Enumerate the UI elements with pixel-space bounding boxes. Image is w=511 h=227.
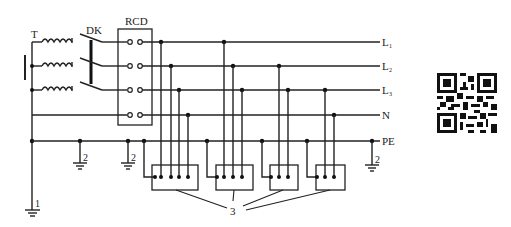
label-PE: PE: [382, 135, 395, 147]
load-3: [260, 64, 298, 190]
label-L2: L: [382, 60, 389, 72]
ground-2c-label: 2: [375, 154, 380, 165]
transformer: T: [25, 28, 72, 210]
label-L3: L: [382, 84, 389, 96]
qr-code-icon: [437, 73, 497, 133]
ground-1-label: 1: [35, 198, 40, 209]
label-L1: L: [382, 36, 389, 48]
svg-text:3: 3: [389, 91, 392, 97]
label-N: N: [382, 109, 390, 121]
ground-2a-label: 2: [83, 152, 88, 163]
tn-s-rcd-diagram: T DK RCD: [0, 0, 511, 227]
line-labels: L 1 L 2 L 3 N PE: [382, 36, 395, 147]
loads-label: 3: [230, 205, 236, 217]
conductor-lines: [32, 42, 380, 141]
rcd-device: RCD: [118, 15, 152, 125]
ground-2b: 2: [121, 139, 136, 169]
dk-switch: DK: [32, 24, 127, 115]
ground-2c: 2: [365, 139, 380, 171]
ground-2b-label: 2: [131, 152, 136, 163]
rcd-label: RCD: [125, 15, 148, 27]
transformer-label: T: [31, 28, 38, 40]
switch-label: DK: [86, 24, 102, 36]
svg-text:1: 1: [389, 43, 392, 49]
svg-text:2: 2: [389, 67, 392, 73]
ground-2a: 2: [73, 139, 88, 169]
loads-callout: 3: [176, 190, 330, 217]
load-4: [305, 88, 345, 190]
